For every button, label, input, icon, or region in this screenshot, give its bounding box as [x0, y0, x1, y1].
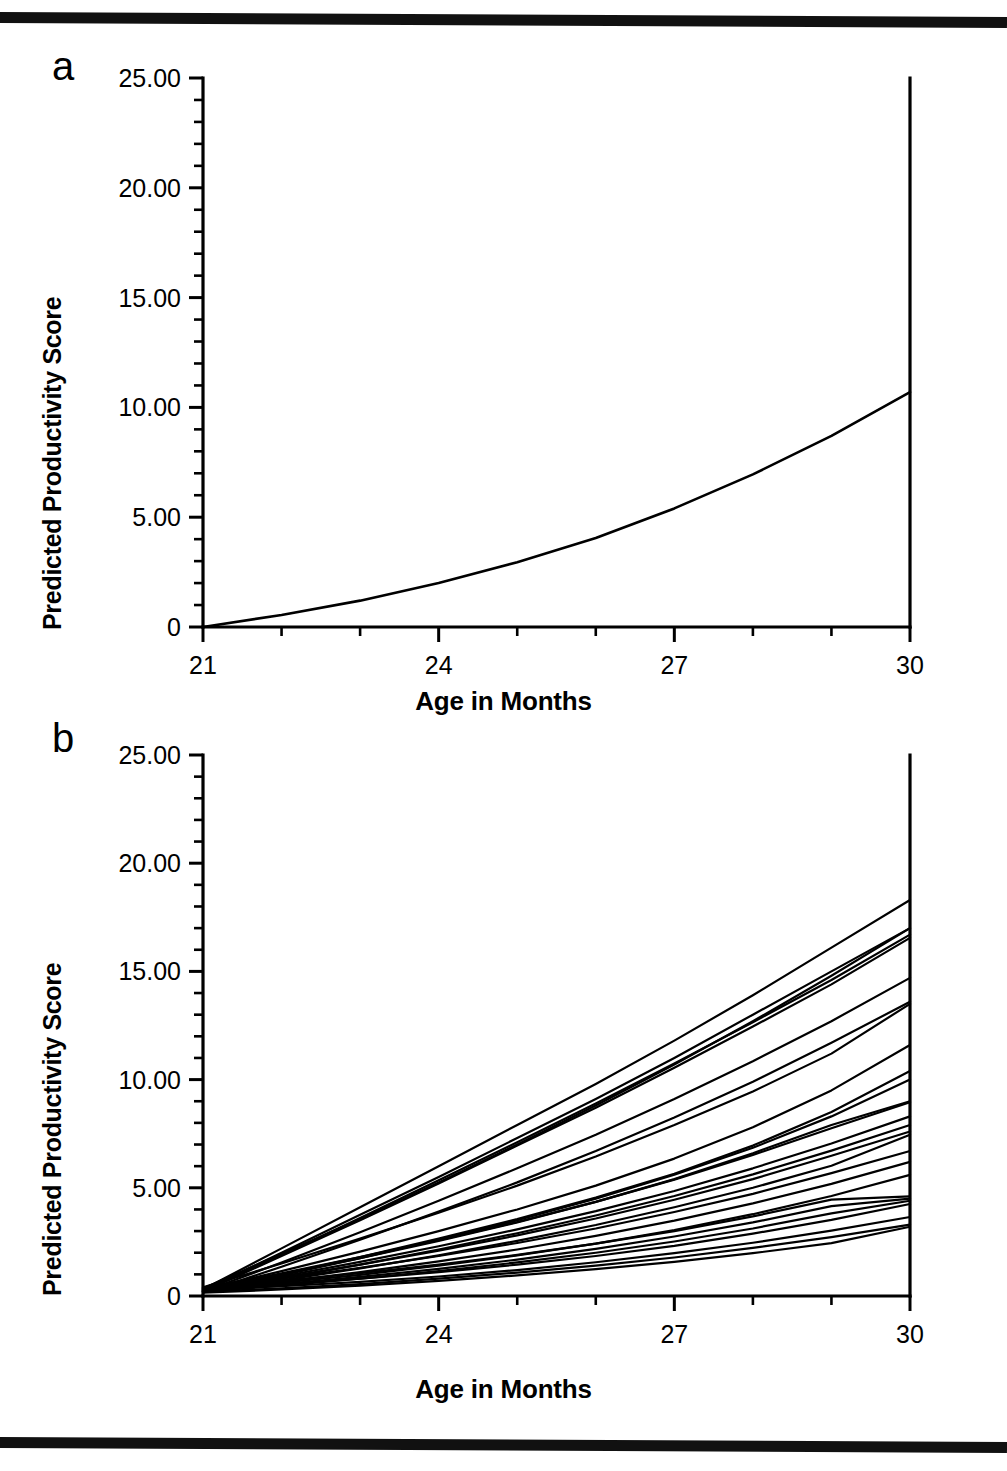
figure-frame: a Predicted Productivity Score Age in Mo…	[0, 0, 1007, 1471]
y-tick-label: 15.00	[118, 284, 181, 312]
panel-b: b Predicted Productivity Score Age in Mo…	[0, 703, 1007, 1415]
x-tick-label: 21	[189, 651, 217, 679]
individual-growth-curve	[203, 935, 910, 1292]
individual-growth-curve	[203, 1004, 910, 1287]
x-tick-label: 24	[425, 1320, 453, 1348]
y-tick-label: 20.00	[118, 174, 181, 202]
y-tick-label: 25.00	[118, 64, 181, 92]
x-tick-label: 30	[896, 651, 924, 679]
panel-a-plot: 05.0010.0015.0020.0025.0021242730	[0, 26, 1007, 716]
individual-growth-curve	[203, 900, 910, 1290]
y-tick-label: 25.00	[118, 741, 181, 769]
bottom-rule	[0, 1437, 1007, 1453]
average-growth-curve	[203, 392, 910, 627]
x-tick-label: 27	[660, 1320, 688, 1348]
y-tick-label: 10.00	[118, 393, 181, 421]
panel-a: a Predicted Productivity Score Age in Mo…	[0, 26, 1007, 716]
panel-b-plot: 05.0010.0015.0020.0025.0021242730	[0, 703, 1007, 1415]
x-tick-label: 27	[660, 651, 688, 679]
y-tick-label: 20.00	[118, 849, 181, 877]
x-tick-label: 24	[425, 651, 453, 679]
y-tick-label: 0	[167, 613, 181, 641]
y-tick-label: 5.00	[132, 503, 181, 531]
x-tick-label: 21	[189, 1320, 217, 1348]
y-tick-label: 15.00	[118, 957, 181, 985]
x-tick-label: 30	[896, 1320, 924, 1348]
y-tick-label: 5.00	[132, 1174, 181, 1202]
y-tick-label: 0	[167, 1282, 181, 1310]
y-tick-label: 10.00	[118, 1066, 181, 1094]
